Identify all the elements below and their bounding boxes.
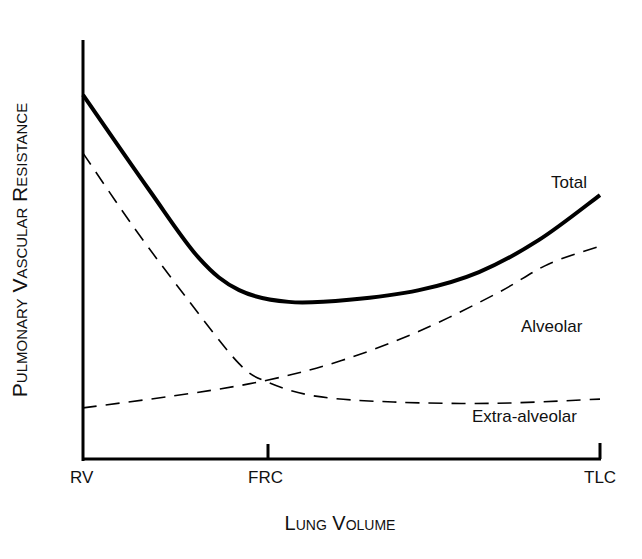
- rv-tick-label: RV: [70, 468, 93, 488]
- alveolar-label: Alveolar: [521, 317, 582, 337]
- extra-alveolar-label: Extra-alveolar: [472, 407, 577, 427]
- tlc-tick-label: TLC: [584, 468, 616, 488]
- x-axis-title: Lung Volume: [285, 512, 396, 535]
- chart-canvas: [0, 0, 642, 559]
- total-label: Total: [551, 173, 587, 193]
- y-axis-title: Pulmonary Vascular Resistance: [8, 103, 32, 397]
- total-curve: [83, 95, 600, 303]
- frc-tick-label: FRC: [248, 468, 283, 488]
